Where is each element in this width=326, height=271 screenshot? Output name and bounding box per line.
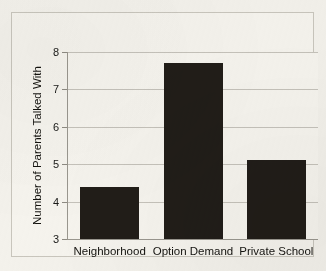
plot-area: 345678 NeighborhoodOption DemandPrivate …	[67, 52, 318, 240]
category-label: Neighborhood	[68, 246, 151, 258]
y-axis-tick	[62, 52, 67, 53]
bar	[80, 187, 139, 239]
y-axis-tick	[62, 202, 67, 203]
y-axis-tick	[62, 164, 67, 165]
scanned-page: 345678 NeighborhoodOption DemandPrivate …	[0, 0, 326, 271]
y-axis-tick-label: 8	[53, 47, 59, 58]
gridline	[68, 52, 318, 53]
y-axis-tick	[62, 239, 67, 240]
y-axis-tick	[62, 89, 67, 90]
y-axis-tick-label: 7	[53, 84, 59, 95]
y-axis-tick-label: 5	[53, 159, 59, 170]
gridline	[68, 239, 318, 240]
category-label: Private School	[235, 246, 318, 258]
bar	[164, 63, 223, 239]
y-axis-title: Number of Parents Talked With	[30, 52, 44, 239]
y-axis-tick	[62, 127, 67, 128]
y-axis-tick-label: 3	[53, 234, 59, 245]
figure-frame: 345678 NeighborhoodOption DemandPrivate …	[11, 12, 314, 257]
category-label: Option Demand	[151, 246, 234, 258]
bar	[247, 160, 306, 239]
y-axis-tick-label: 6	[53, 121, 59, 132]
y-axis-tick-label: 4	[53, 196, 59, 207]
